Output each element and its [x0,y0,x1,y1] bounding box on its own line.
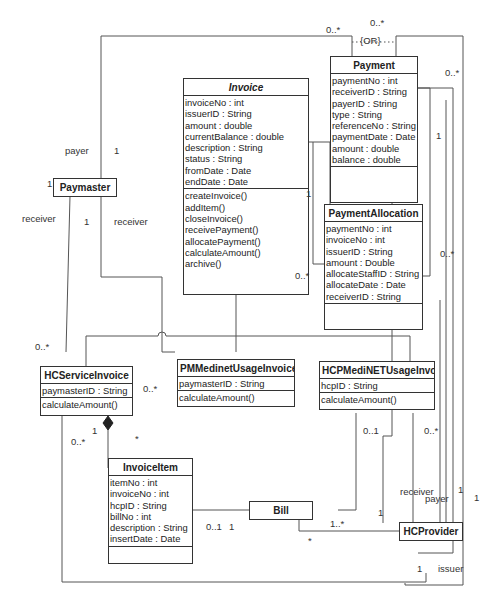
class-pm-medinet-usage-invoice-attributes: paymasterID : String [178,377,294,391]
operation: calculateAmount() [321,394,433,405]
or-constraint: {OR} [360,35,381,46]
multiplicity: * [308,535,312,546]
attribute: allocateDate : Date [326,279,421,290]
attribute: currentBalance : double [185,131,307,142]
operation: archive() [185,258,307,269]
multiplicity: 0..* [445,67,459,78]
attribute: paymentDate : Date [332,131,416,142]
multiplicity: 0..* [143,383,157,394]
role-receiver: receiver [114,216,148,227]
operation: calculateAmount() [179,392,293,403]
multiplicity: 0..* [424,425,438,436]
attribute: hcpID : String [110,500,191,511]
class-payment-allocation-attributes: paymentNo : int invoiceNo : int issuerID… [325,222,422,304]
role-issuer: issuer [438,563,463,574]
multiplicity: 1 [114,145,119,156]
class-payment-allocation-operations [325,304,422,320]
attribute: amount : Double [326,257,421,268]
multiplicity: 1 [458,484,463,495]
class-hcp-medinet-usage-invoice[interactable]: HCPMediNETUsageInvoice hcpID : String ca… [319,361,435,410]
attribute: payerID : String [332,98,416,109]
class-hcp-medinet-usage-invoice-name: HCPMediNETUsageInvoice [320,362,434,379]
attribute: allocateStaffID : String [326,268,421,279]
multiplicity: 1 [417,563,422,574]
multiplicity: 0..1 [363,425,379,436]
attribute: invoiceNo : int [185,97,307,108]
class-pm-medinet-usage-invoice-name: PMMedinetUsageInvoice [178,360,294,377]
attribute: type : String [332,109,416,120]
class-paymaster-name: Paymaster [60,182,111,193]
attribute: balance : double [332,154,416,165]
class-hcp-medinet-usage-invoice-attributes: hcpID : String [320,379,434,393]
operation: createInvoice() [185,190,307,201]
class-invoice-name: Invoice [184,79,308,96]
multiplicity: 0..* [71,436,85,447]
attribute: paymentNo : int [332,75,416,86]
multiplicity: 0..* [295,270,309,281]
attribute: issuerID : String [185,108,307,119]
multiplicity: 1..* [330,518,344,529]
role-receiver: receiver [22,213,56,224]
attribute: receiverID : String [332,86,416,97]
class-hc-service-invoice-attributes: paymasterID : String [41,384,132,398]
multiplicity: 1 [84,216,89,227]
multiplicity: 0..* [326,24,340,35]
attribute: amount : double [332,143,416,154]
operation: receivePayment() [185,224,307,235]
attribute: invoiceNo : int [326,234,421,245]
attribute: insertDate : Date [110,533,191,544]
attribute: receiverID : String [326,291,421,302]
operation: allocatePayment() [185,236,307,247]
attribute: paymentNo : int [326,223,421,234]
composition-diamond [103,416,113,430]
class-invoice[interactable]: Invoice invoiceNo : int issuerID : Strin… [183,78,309,295]
class-hc-service-invoice[interactable]: HCServiceInvoice paymasterID : String ca… [40,366,133,416]
attribute: endDate : Date [185,176,307,187]
class-pm-medinet-usage-invoice-operations: calculateAmount() [178,391,294,404]
operation: calculateAmount() [185,247,307,258]
attribute: paymasterID : String [42,385,131,396]
multiplicity: 0..* [440,248,454,259]
multiplicity: 1 [378,507,383,518]
multiplicity: 1 [474,492,479,503]
class-invoice-item-attributes: itemNo : int invoiceNo : int hcpID : Str… [109,476,192,547]
attribute: amount : double [185,120,307,131]
attribute: hcpID : String [321,380,433,391]
multiplicity: 0..* [35,341,49,352]
class-hc-service-invoice-name: HCServiceInvoice [41,367,132,384]
multiplicity: 1 [436,130,441,141]
operation: closeInvoice() [185,213,307,224]
class-payment-allocation-name: PaymentAllocation [325,205,422,222]
multiplicity: 1 [306,188,311,199]
class-invoice-item[interactable]: InvoiceItem itemNo : int invoiceNo : int… [108,458,193,564]
class-invoice-operations: createInvoice() addItem() closeInvoice()… [184,189,308,270]
role-payer: payer [65,145,89,156]
attribute: referenceNo : String [332,120,416,131]
class-payment-operations [331,167,417,183]
class-invoice-attributes: invoiceNo : int issuerID : String amount… [184,96,308,189]
class-hc-service-invoice-operations: calculateAmount() [41,398,132,411]
class-payment-allocation[interactable]: PaymentAllocation paymentNo : int invoic… [324,204,423,330]
class-invoice-item-name: InvoiceItem [109,459,192,476]
multiplicity: 1 [229,521,234,532]
multiplicity: 0..* [370,17,384,28]
attribute: status : String [185,153,307,164]
class-payment-attributes: paymentNo : int receiverID : String paye… [331,74,417,167]
attribute: invoiceNo : int [110,488,191,499]
class-bill-name: Bill [273,505,289,516]
attribute: billNo : int [110,511,191,522]
class-payment[interactable]: Payment paymentNo : int receiverID : Str… [330,56,418,203]
class-bill[interactable]: Bill [249,501,313,520]
attribute: description : String [110,522,191,533]
multiplicity: 1 [47,178,52,189]
class-hcp-medinet-usage-invoice-operations: calculateAmount() [320,393,434,406]
class-pm-medinet-usage-invoice[interactable]: PMMedinetUsageInvoice paymasterID : Stri… [177,359,295,407]
multiplicity: 1 [92,425,97,436]
class-paymaster[interactable]: Paymaster [53,178,117,197]
class-hc-provider[interactable]: HCProvider [399,522,463,541]
multiplicity: * [135,433,139,444]
attribute: fromDate : Date [185,165,307,176]
class-invoice-item-operations [109,547,192,563]
multiplicity: 0..1 [206,521,222,532]
attribute: itemNo : int [110,477,191,488]
